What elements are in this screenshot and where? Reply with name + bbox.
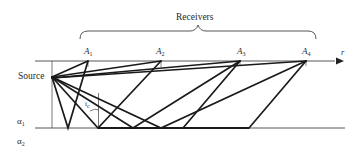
critical-angle-sub: c — [87, 103, 90, 109]
source-label: Source — [18, 72, 44, 82]
arrow-head-icon — [336, 58, 344, 65]
head-wave-ray-a3 — [183, 61, 240, 128]
receiver-a2-sub: 2 — [162, 51, 165, 57]
rays — [52, 61, 306, 128]
receivers-label: Receivers — [176, 13, 213, 23]
receiver-a1-sub: 1 — [90, 51, 93, 57]
layer2-label: α2 — [17, 137, 25, 147]
receiver-label-a4: A4 — [302, 47, 311, 57]
receiver-a4-sub: 4 — [308, 51, 311, 57]
layer1-label: α1 — [17, 117, 25, 127]
receivers-brace — [80, 25, 316, 39]
axis-r-label: r — [341, 48, 344, 57]
receiver-label-a3: A3 — [237, 47, 246, 57]
critical-angle-arc — [90, 109, 99, 111]
receiver-a3-sub: 3 — [243, 51, 246, 57]
layer2-sub: 2 — [22, 141, 25, 147]
direct-ray-a4 — [52, 61, 306, 78]
receiver-label-a1: A1 — [84, 47, 93, 57]
layer1-sub: 1 — [22, 121, 25, 127]
critical-angle-label: ic — [85, 101, 90, 109]
reflected-ray-a1 — [52, 61, 88, 128]
seismic-refraction-diagram — [0, 0, 362, 158]
receiver-label-a2: A2 — [156, 47, 165, 57]
head-wave-ray-a4 — [249, 61, 306, 128]
